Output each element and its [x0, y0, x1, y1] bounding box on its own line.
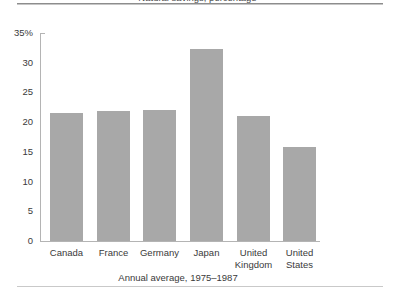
y-tick-label: 35%: [14, 28, 33, 38]
y-tick-label: 20: [22, 117, 33, 127]
bar: [190, 49, 223, 241]
y-tick-label: 5: [28, 206, 33, 216]
bottom-rule: [17, 286, 383, 287]
x-axis-line: [40, 241, 320, 242]
y-tick-label: 30: [22, 58, 33, 68]
y-tick-label: 15: [22, 147, 33, 157]
y-tick-label: 25: [22, 87, 33, 97]
bar: [143, 110, 176, 241]
x-tick-label: United States: [270, 247, 330, 270]
bar: [283, 147, 316, 241]
y-axis-line: [40, 33, 41, 242]
chart-figure: Natural savings, percentage 051015202530…: [0, 0, 395, 291]
y-axis-top-cap: [40, 33, 45, 34]
bar: [97, 111, 130, 241]
bar: [237, 116, 270, 241]
bar: [50, 113, 83, 241]
y-tick-label: 10: [22, 177, 33, 187]
plot-area: 05101520253035%: [40, 33, 320, 242]
y-tick-label: 0: [28, 236, 33, 246]
top-rule-shadow: [17, 4, 383, 5]
chart-caption: Annual average, 1975–1987: [0, 272, 356, 283]
